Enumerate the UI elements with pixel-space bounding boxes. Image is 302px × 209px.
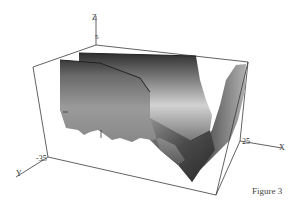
x-axis-label: X bbox=[279, 143, 285, 152]
z-axis-tick: 5 bbox=[95, 33, 99, 41]
figure-caption: Figure 3 bbox=[252, 186, 282, 196]
z-axis-label: Z bbox=[92, 13, 97, 22]
y-axis-tick: -35 bbox=[36, 154, 47, 163]
surface-plot: Z 5 25 X -35 Y bbox=[0, 0, 302, 209]
y-axis-label: Y bbox=[16, 169, 22, 178]
x-axis-tick: 25 bbox=[242, 137, 250, 146]
